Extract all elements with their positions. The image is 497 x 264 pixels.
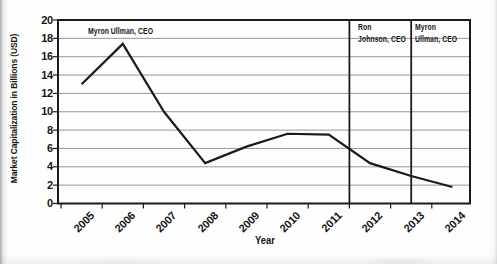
ceo-annotation-line: Myron bbox=[415, 21, 457, 34]
y-tick-label: 16 bbox=[41, 51, 53, 62]
y-tick-label: 14 bbox=[41, 70, 53, 81]
y-tick-label: 8 bbox=[47, 125, 53, 136]
y-tick-label: 10 bbox=[41, 106, 53, 117]
ceo-annotation-line: Ron bbox=[358, 21, 406, 34]
market-cap-data-line bbox=[82, 44, 453, 187]
y-axis-title: Market Capitalization in Billions (USD) bbox=[10, 5, 19, 212]
ceo-annotation-ullman-second: Myron Ullman, CEO bbox=[415, 21, 457, 46]
ceo-annotation-johnson: Ron Johnson, CEO bbox=[358, 21, 406, 46]
y-tick-label: 2 bbox=[47, 180, 53, 191]
y-tick-label: 18 bbox=[41, 33, 53, 44]
y-tick-label: 4 bbox=[47, 161, 53, 172]
ceo-annotation-ullman-first: Myron Ullman, CEO bbox=[88, 25, 153, 38]
ceo-annotation-line: Myron Ullman, CEO bbox=[88, 25, 153, 36]
x-axis-title: Year bbox=[255, 235, 275, 246]
ceo-annotation-line: Ullman, CEO bbox=[415, 33, 457, 46]
market-cap-line-chart-figure: Market Capitalization in Billions (USD) … bbox=[0, 0, 497, 264]
y-tick-label: 0 bbox=[47, 198, 53, 209]
y-tick-label: 6 bbox=[47, 143, 53, 154]
ceo-annotation-line: Johnson, CEO bbox=[358, 33, 406, 46]
y-tick-label: 12 bbox=[41, 88, 53, 99]
y-tick-label: 20 bbox=[41, 15, 53, 26]
